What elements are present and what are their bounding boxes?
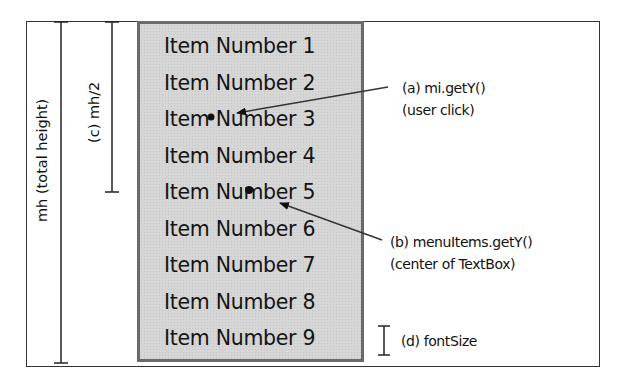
diagram-overlay bbox=[0, 0, 625, 383]
total-height-bracket bbox=[54, 22, 68, 363]
half-height-bracket bbox=[105, 22, 119, 192]
annotation-b-line1: (b) menuItems.getY() bbox=[390, 231, 532, 253]
annotation-a-line2: (user click) bbox=[402, 99, 485, 121]
arrow-b bbox=[280, 203, 382, 240]
annotation-a: (a) mi.getY() (user click) bbox=[402, 77, 485, 121]
annotation-b: (b) menuItems.getY() (center of TextBox) bbox=[390, 231, 532, 275]
annotation-d: (d) fontSize bbox=[401, 330, 477, 352]
arrow-a bbox=[237, 87, 388, 113]
center-point-dot bbox=[245, 186, 253, 194]
annotation-a-line1: (a) mi.getY() bbox=[402, 77, 485, 99]
click-point-dot bbox=[208, 114, 215, 121]
annotation-b-line2: (center of TextBox) bbox=[390, 253, 532, 275]
font-size-bracket bbox=[378, 326, 390, 355]
